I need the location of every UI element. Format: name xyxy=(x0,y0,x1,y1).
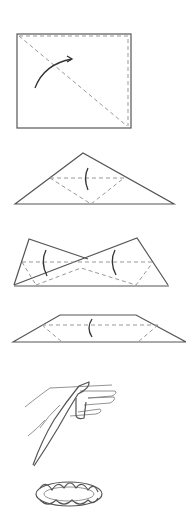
step-2-triangle xyxy=(15,153,174,204)
step-6-twisted-ring xyxy=(36,482,102,506)
step-5-hand-wrap xyxy=(25,382,116,466)
fold-arrow-icon xyxy=(86,168,89,190)
step-1-square-sheet xyxy=(17,34,131,128)
step-4-trapezoid-band xyxy=(13,315,186,342)
fold-arrow-icon xyxy=(89,319,92,337)
folding-diagram xyxy=(0,0,186,509)
step-3-crossed-folds xyxy=(14,238,169,286)
fold-arrow-icon xyxy=(35,59,72,88)
